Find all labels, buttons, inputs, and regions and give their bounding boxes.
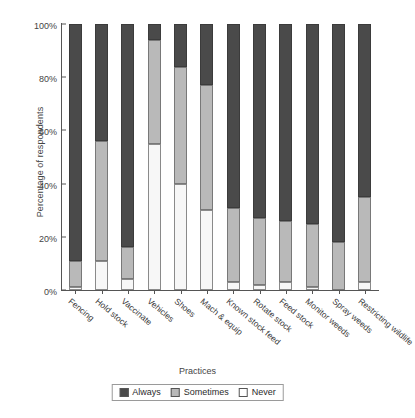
y-axis-tick: 20% xyxy=(39,228,62,246)
bar-segment-never[interactable] xyxy=(69,287,82,290)
bar-stack[interactable] xyxy=(69,24,82,290)
bar-segment-always[interactable] xyxy=(227,24,240,208)
chart-legend: Always Sometimes Never xyxy=(111,384,284,401)
y-axis-tick-label: 0% xyxy=(44,287,57,297)
legend-item-never: Never xyxy=(239,387,276,397)
x-axis-tick-mark xyxy=(286,290,287,294)
legend-swatch-always-icon xyxy=(119,388,128,397)
y-axis-tick-mark xyxy=(62,290,66,291)
legend-label-never: Never xyxy=(252,387,276,397)
bar-segment-always[interactable] xyxy=(121,24,134,247)
bar-segment-never[interactable] xyxy=(358,282,371,290)
bar-segment-sometimes[interactable] xyxy=(306,224,319,288)
bar-segment-never[interactable] xyxy=(148,144,161,290)
bar-stack[interactable] xyxy=(121,24,134,290)
y-axis-tick-label: 100% xyxy=(34,21,57,31)
x-axis-tick-mark xyxy=(365,290,366,294)
bar-stack[interactable] xyxy=(279,24,292,290)
x-axis-tick-mark xyxy=(128,290,129,294)
bar-segment-always[interactable] xyxy=(148,24,161,40)
x-axis-tick-mark xyxy=(312,290,313,294)
bar-segment-always[interactable] xyxy=(69,24,82,261)
bar-segment-never[interactable] xyxy=(306,287,319,290)
y-axis-tick-label: 40% xyxy=(39,181,57,191)
bar-segment-sometimes[interactable] xyxy=(253,218,266,285)
bar-segment-sometimes[interactable] xyxy=(174,67,187,184)
bar-stack[interactable] xyxy=(227,24,240,290)
bar-segment-always[interactable] xyxy=(95,24,108,141)
y-axis-tick-mark xyxy=(62,183,66,184)
x-axis-tick-mark xyxy=(102,290,103,294)
legend-swatch-sometimes-icon xyxy=(171,388,180,397)
y-axis-tick: 100% xyxy=(34,15,62,33)
bar-segment-always[interactable] xyxy=(253,24,266,218)
legend-label-sometimes: Sometimes xyxy=(184,387,229,397)
x-axis-tick-mark xyxy=(181,290,182,294)
bar-segment-never[interactable] xyxy=(95,261,108,290)
bar-stack[interactable] xyxy=(95,24,108,290)
bar-segment-always[interactable] xyxy=(306,24,319,224)
bar-segment-never[interactable] xyxy=(227,282,240,290)
x-axis-tick-mark xyxy=(233,290,234,294)
bar-segment-always[interactable] xyxy=(332,24,345,242)
legend-label-always: Always xyxy=(132,387,161,397)
y-axis-tick: 0% xyxy=(44,281,62,299)
legend-swatch-never-icon xyxy=(239,388,248,397)
bar-segment-sometimes[interactable] xyxy=(69,261,82,288)
bar-stack[interactable] xyxy=(174,24,187,290)
y-axis-tick-label: 20% xyxy=(39,234,57,244)
bar-segment-sometimes[interactable] xyxy=(95,141,108,261)
bar-stack[interactable] xyxy=(358,24,371,290)
bar-segment-sometimes[interactable] xyxy=(148,40,161,144)
y-axis-tick: 80% xyxy=(39,68,62,86)
x-axis-tick-mark xyxy=(260,290,261,294)
bar-stack[interactable] xyxy=(306,24,319,290)
bar-stack[interactable] xyxy=(253,24,266,290)
bar-segment-sometimes[interactable] xyxy=(358,197,371,282)
bar-segment-never[interactable] xyxy=(121,279,134,290)
y-axis-tick: 40% xyxy=(39,175,62,193)
x-axis-line xyxy=(61,290,379,291)
y-axis-tick: 60% xyxy=(39,121,62,139)
y-axis-tick-mark xyxy=(62,130,66,131)
x-axis-tick-mark xyxy=(154,290,155,294)
plot-area: 0%20%40%60%80%100% xyxy=(62,24,378,290)
y-axis-tick-mark xyxy=(62,77,66,78)
bar-segment-always[interactable] xyxy=(174,24,187,67)
bar-segment-sometimes[interactable] xyxy=(227,208,240,282)
bar-segment-sometimes[interactable] xyxy=(121,247,134,279)
y-axis-tick-label: 80% xyxy=(39,74,57,84)
bar-segment-always[interactable] xyxy=(279,24,292,221)
x-axis-tick-mark xyxy=(339,290,340,294)
bar-segment-never[interactable] xyxy=(279,282,292,290)
y-axis-tick-label: 60% xyxy=(39,127,57,137)
bar-segment-sometimes[interactable] xyxy=(279,221,292,282)
legend-item-sometimes: Sometimes xyxy=(171,387,229,397)
y-axis-tick-mark xyxy=(62,24,66,25)
bar-segment-sometimes[interactable] xyxy=(200,85,213,210)
bar-segment-always[interactable] xyxy=(358,24,371,197)
bar-stack[interactable] xyxy=(200,24,213,290)
x-axis-title: Practices xyxy=(0,366,395,376)
x-axis-tick-mark xyxy=(75,290,76,294)
x-axis-tick-label: Fencing xyxy=(67,296,97,323)
bar-stack[interactable] xyxy=(148,24,161,290)
bar-segment-never[interactable] xyxy=(174,184,187,290)
legend-item-always: Always xyxy=(119,387,161,397)
bar-segment-never[interactable] xyxy=(200,210,213,290)
bar-segment-always[interactable] xyxy=(200,24,213,85)
bar-segment-never[interactable] xyxy=(253,285,266,290)
bar-stack[interactable] xyxy=(332,24,345,290)
y-axis-tick-mark xyxy=(62,236,66,237)
x-axis-tick-mark xyxy=(207,290,208,294)
bar-segment-sometimes[interactable] xyxy=(332,242,345,290)
